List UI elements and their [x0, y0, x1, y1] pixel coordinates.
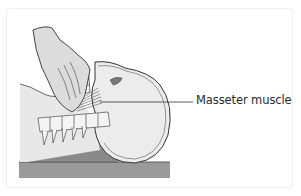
masseter-muscle-label: Masseter muscle — [196, 93, 292, 107]
table-surface — [19, 162, 170, 178]
